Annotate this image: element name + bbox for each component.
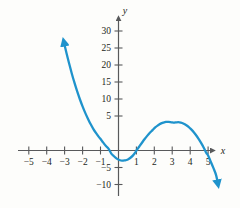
graph-figure: −5 −4 −3 −2 −1 1 2 3 4 5 30 25 20 15 10 … <box>0 0 240 208</box>
x-tick-label: 3 <box>170 157 175 167</box>
y-tick-label: 10 <box>102 94 112 104</box>
y-tick-label: −5 <box>101 163 111 173</box>
x-tick-label: 2 <box>152 157 157 167</box>
y-tick-label: 5 <box>106 111 111 121</box>
x-tick-label: 4 <box>188 157 193 167</box>
axis-lines <box>18 17 214 196</box>
x-tick-label: 1 <box>134 157 139 167</box>
y-tick-label: −10 <box>96 180 111 190</box>
coordinate-plane: −5 −4 −3 −2 −1 1 2 3 4 5 30 25 20 15 10 … <box>0 0 240 208</box>
x-tick-label: −5 <box>24 157 34 167</box>
y-tick-label: 15 <box>102 77 112 87</box>
y-tick-label: 30 <box>102 26 112 36</box>
x-tick-label: −2 <box>78 157 88 167</box>
y-tick-label: 20 <box>102 60 112 70</box>
x-axis-label: x <box>220 145 226 156</box>
y-tick-label: 25 <box>102 43 112 53</box>
x-tick-label: −4 <box>42 157 52 167</box>
y-axis-label: y <box>122 5 128 16</box>
x-tick-label: −3 <box>60 157 70 167</box>
